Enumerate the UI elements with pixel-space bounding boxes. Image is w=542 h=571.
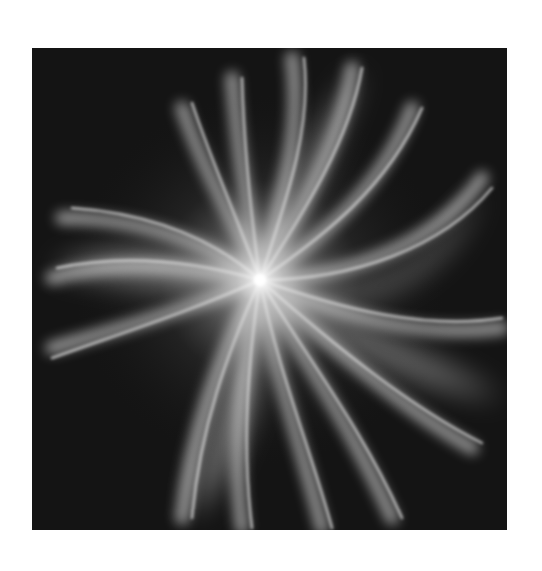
swirl-artwork <box>32 48 507 530</box>
light-swirl-graphic <box>32 48 507 530</box>
